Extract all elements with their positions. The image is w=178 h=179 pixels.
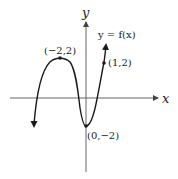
point-right-label: (1,2) — [108, 57, 132, 68]
point-min-label: (0,−2) — [87, 130, 119, 141]
x-axis-label: x — [162, 91, 170, 106]
curve-arrow-left-icon — [31, 121, 38, 128]
point-local-max — [58, 56, 62, 60]
point-max-label: (−2,2) — [44, 45, 76, 56]
point-local-min — [84, 124, 88, 128]
function-graph: y x y = f(x) (−2,2) (1,2) (0,−2) — [0, 0, 178, 179]
point-one-two — [102, 61, 106, 65]
y-axis-label: y — [81, 5, 90, 20]
function-curve — [34, 45, 106, 126]
function-label: y = f(x) — [97, 29, 136, 40]
